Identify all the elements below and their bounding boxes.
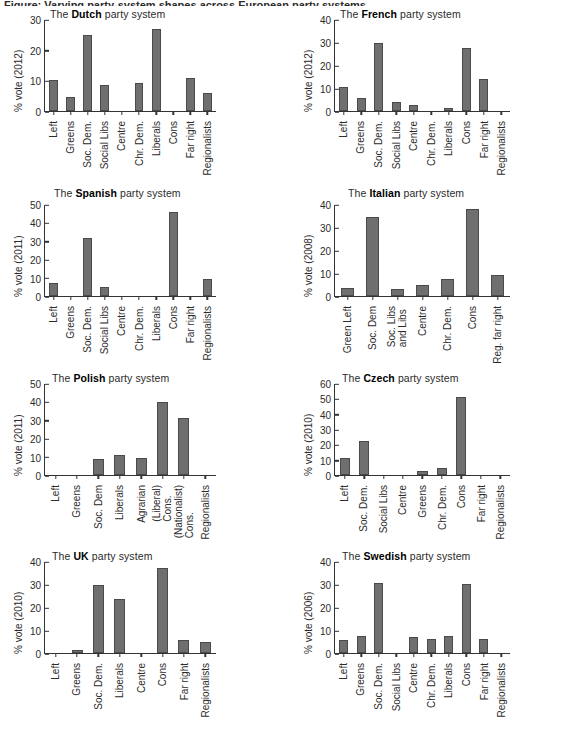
- bar: [441, 279, 454, 296]
- x-axis-tick-label-text: Greens: [71, 663, 82, 696]
- x-axis-tick-mark: [98, 653, 99, 657]
- y-axis-tick-label: 20: [30, 45, 45, 56]
- panel-title: The Czech party system: [342, 372, 459, 384]
- bar-slot: [388, 562, 406, 653]
- x-axis-tick-label: Left: [334, 659, 352, 729]
- x-axis-tick-mark: [138, 296, 139, 300]
- x-axis-tick-mark: [183, 475, 184, 479]
- bar-slot: [335, 205, 360, 296]
- x-axis-tick-mark: [173, 296, 174, 300]
- panel-grid: The Dutch party system% vote (2012)01020…: [0, 6, 577, 732]
- x-axis-tick-mark: [173, 111, 174, 115]
- panel-title: The Dutch party system: [50, 8, 165, 20]
- title-prefix: The: [348, 187, 369, 199]
- bar-slot: [113, 205, 130, 296]
- x-axis-tick-mark: [162, 653, 163, 657]
- x-axis-labels: LeftSoc. Dem.Social LibsCentreGreensChr.…: [334, 481, 510, 551]
- bar-slot: [165, 20, 182, 111]
- x-axis-tick-label-text: Green Left: [341, 306, 352, 353]
- bar-slot: [475, 20, 493, 111]
- x-axis-tick-mark: [447, 296, 448, 300]
- bar-slot: [493, 562, 511, 653]
- title-country: Czech: [363, 372, 394, 384]
- y-axis-tick-label: 10: [30, 626, 45, 637]
- y-axis-tick-label: 10: [320, 269, 335, 280]
- x-axis-tick-mark: [448, 111, 449, 115]
- y-axis-tick-label: 40: [320, 557, 335, 568]
- bar: [340, 458, 350, 475]
- bar-slot: [45, 562, 66, 653]
- title-prefix: The: [52, 372, 73, 384]
- bar-slot: [148, 20, 165, 111]
- bar-slot: [131, 384, 152, 475]
- bar: [66, 97, 75, 111]
- bar: [157, 568, 168, 653]
- x-axis-tick-mark: [53, 296, 54, 300]
- x-axis-tick-mark: [119, 475, 120, 479]
- x-axis-tick-label: Chr. Dem.: [435, 302, 460, 372]
- x-axis-tick-mark: [402, 475, 403, 479]
- y-axis-tick-label: 40: [30, 557, 45, 568]
- x-axis-tick-mark: [155, 111, 156, 115]
- x-axis-tick-label: Soc. Dem.: [78, 302, 95, 372]
- x-axis-tick-label-text: Cons: [456, 485, 467, 508]
- x-axis-tick-label-text: Centre: [116, 121, 127, 151]
- bar-slot: [148, 205, 165, 296]
- y-axis-label: % vote (2012): [303, 50, 314, 112]
- y-axis-label: % vote (2006): [303, 592, 314, 654]
- x-axis-tick-mark: [205, 653, 206, 657]
- bar: [93, 459, 104, 475]
- x-axis-tick-label: Social Libs: [387, 659, 405, 729]
- x-axis-tick-mark: [396, 111, 397, 115]
- x-axis-tick-label: Cons: [460, 302, 485, 372]
- x-axis-tick-label: Liberals: [440, 117, 458, 187]
- x-axis-tick-label-text: Soc. Dem.: [372, 663, 383, 710]
- bar-slot: [435, 205, 460, 296]
- x-axis-tick-mark: [104, 111, 105, 115]
- x-axis-tick-label-text: Social Libs: [99, 306, 110, 354]
- x-axis-tick-label: Regionalists: [199, 117, 216, 187]
- y-axis-tick-label: 30: [30, 236, 45, 247]
- y-axis-tick-label: 20: [320, 440, 335, 451]
- x-axis-labels: LeftGreensSoc. DemLiberalsAgrarian(Liber…: [44, 481, 216, 551]
- bar-series: [335, 384, 510, 475]
- x-axis-tick-label: Social Libs: [96, 117, 113, 187]
- x-axis-tick-mark: [448, 653, 449, 657]
- bar-series: [335, 20, 510, 111]
- title-prefix: The: [342, 550, 363, 562]
- x-axis-tick-label-text: Centre: [408, 663, 419, 693]
- x-axis-tick-label: Cons: [152, 659, 174, 729]
- x-axis-tick-mark: [121, 111, 122, 115]
- x-axis-tick-mark: [207, 296, 208, 300]
- x-axis-tick-label-text: Regionalists: [495, 485, 506, 539]
- plot-area: 01020304050: [44, 384, 216, 476]
- bar-slot: [423, 20, 441, 111]
- y-axis-tick-label: 0: [325, 649, 335, 660]
- y-axis-tick-label: 30: [30, 580, 45, 591]
- bar-slot: [62, 205, 79, 296]
- bar-series: [45, 20, 216, 111]
- bar-slot: [173, 562, 194, 653]
- x-axis-tick-label: Soc. Dem.: [78, 117, 95, 187]
- x-axis-tick-label-text: Far right: [178, 663, 189, 700]
- y-axis-tick-label: 0: [325, 471, 335, 482]
- bar-slot: [109, 562, 130, 653]
- y-axis-tick-label: 20: [30, 603, 45, 614]
- title-country: UK: [73, 550, 88, 562]
- x-axis-tick-mark: [501, 653, 502, 657]
- bar-slot: [410, 205, 435, 296]
- x-axis-tick-label-text: Left: [337, 663, 348, 680]
- x-axis-tick-mark: [162, 475, 163, 479]
- bar-slot: [182, 205, 199, 296]
- x-axis-tick-label-text: Cons: [168, 306, 179, 329]
- x-axis-tick-label-text: Left: [49, 485, 60, 502]
- x-axis-tick-mark: [431, 653, 432, 657]
- x-axis-tick-label: Soc. Dem: [359, 302, 384, 372]
- panel-title: The Swedish party system: [342, 550, 470, 562]
- y-axis-tick-label: 10: [30, 76, 45, 87]
- bar-slot: [79, 20, 96, 111]
- x-axis-tick-label: Centre: [393, 481, 413, 551]
- x-axis-tick-label: Soc. Dem.: [369, 117, 387, 187]
- x-axis-tick-mark: [190, 111, 191, 115]
- title-suffix: party system: [407, 550, 471, 562]
